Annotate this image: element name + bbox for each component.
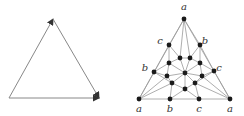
graph-node <box>167 43 172 48</box>
vertex-label: a <box>227 103 233 114</box>
graph-node <box>182 17 187 22</box>
triangle-arrow-edge <box>53 19 99 98</box>
graph-node <box>228 97 233 102</box>
graph-edge <box>170 83 172 99</box>
graph-edge <box>169 45 180 58</box>
graph-edge <box>214 71 230 99</box>
graph-node <box>167 61 172 66</box>
graph-edge <box>202 76 230 99</box>
vertex-label: a <box>136 103 142 114</box>
graph-edge <box>154 72 172 83</box>
graph-edge <box>185 63 200 73</box>
graph-node <box>197 97 202 102</box>
vertex-label: b <box>202 35 208 46</box>
vertex-label: c <box>157 35 163 46</box>
vertex-label: b <box>142 62 148 73</box>
graph-node <box>178 56 183 61</box>
graph-node <box>193 81 198 86</box>
figure-canvas: acbbcabca <box>0 0 244 116</box>
graph-node <box>183 71 188 76</box>
graph-edge <box>195 83 230 99</box>
triangle-arrow-edge <box>9 19 53 98</box>
graph-node <box>152 70 157 75</box>
graph-edge <box>170 89 185 99</box>
graph-node <box>183 87 188 92</box>
oriented-triangle <box>9 19 99 98</box>
graph-node <box>168 97 173 102</box>
graph-edge <box>195 71 214 83</box>
graph-node <box>200 74 205 79</box>
vertex-label: b <box>167 103 173 114</box>
graph-node <box>188 56 193 61</box>
graph-node <box>137 97 142 102</box>
vertex-label: c <box>216 62 222 73</box>
graph-node <box>165 74 170 79</box>
graph-edge <box>169 63 185 73</box>
graph-node <box>170 81 175 86</box>
vertex-label: a <box>181 1 187 12</box>
graph-node <box>198 61 203 66</box>
graph-edge <box>190 45 200 58</box>
vertex-label: c <box>196 103 202 114</box>
